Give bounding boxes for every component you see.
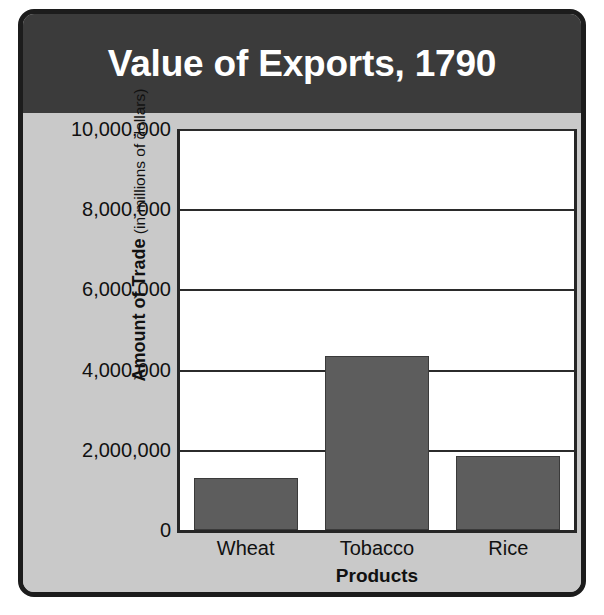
- page-title: Value of Exports, 1790: [108, 43, 496, 85]
- chart-body: Amount of Trade (in millions of dollars)…: [23, 113, 581, 592]
- x-tick-label: Rice: [443, 537, 574, 560]
- y-tick-label: 6,000,000: [82, 279, 171, 299]
- x-axis-title: Products: [177, 565, 577, 587]
- x-tick-labels: WheatTobaccoRice: [177, 537, 577, 565]
- y-tick-label: 2,000,000: [82, 440, 171, 460]
- bar-series: [180, 129, 574, 530]
- y-tick-label: 8,000,000: [82, 199, 171, 219]
- bar-rice: [456, 456, 560, 530]
- bar-tobacco: [325, 356, 429, 530]
- y-tick-label: 10,000,000: [71, 119, 171, 139]
- x-tick-label: Tobacco: [311, 537, 442, 560]
- plot-area: 02,000,0004,000,0006,000,0008,000,00010,…: [177, 129, 577, 533]
- y-tick-label: 0: [160, 520, 171, 540]
- y-tick-label: 4,000,000: [82, 360, 171, 380]
- x-tick-label: Wheat: [180, 537, 311, 560]
- chart-title-banner: Value of Exports, 1790: [23, 14, 581, 113]
- bar-wheat: [194, 478, 298, 530]
- chart-screenshot: Value of Exports, 1790 Amount of Trade (…: [0, 0, 604, 615]
- chart-frame: Value of Exports, 1790 Amount of Trade (…: [18, 9, 586, 597]
